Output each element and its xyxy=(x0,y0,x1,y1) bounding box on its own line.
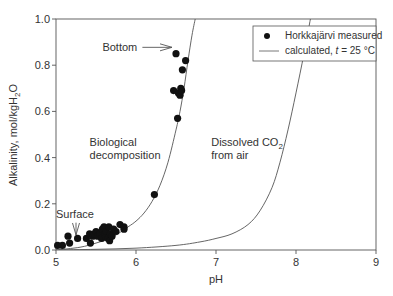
data-point xyxy=(178,87,185,94)
x-tick-label: 5 xyxy=(53,256,59,268)
x-tick-label: 8 xyxy=(293,256,299,268)
data-point xyxy=(120,226,127,233)
annotation-bio2: decomposition xyxy=(90,149,161,161)
data-point xyxy=(174,115,181,122)
y-tick-label: 0.2 xyxy=(35,198,50,210)
annotation-co2b: from air xyxy=(211,149,249,161)
x-axis: 56789 xyxy=(53,250,379,268)
y-tick-label: 0.4 xyxy=(35,152,50,164)
data-point xyxy=(66,239,73,246)
data-point xyxy=(87,239,94,246)
data-point xyxy=(59,242,66,249)
annotation-surface: Surface xyxy=(56,208,94,220)
x-tick-label: 6 xyxy=(133,256,139,268)
legend-label-measured: Horkkajärvi measured xyxy=(285,30,382,41)
y-axis-title: Alkalinity, mol/kgH2O xyxy=(7,84,22,187)
alkalinity-ph-chart: 0.00.20.40.60.81.0 56789 BottomSurfaceBi… xyxy=(0,0,393,296)
annotation-bottom: Bottom xyxy=(102,41,137,53)
data-point xyxy=(151,191,158,198)
data-point xyxy=(172,50,179,57)
y-axis: 0.00.20.40.60.81.0 xyxy=(35,13,56,256)
data-point xyxy=(179,66,186,73)
x-axis-title: pH xyxy=(209,273,223,285)
data-point xyxy=(182,57,189,64)
annotation-bio1: Biological xyxy=(90,136,137,148)
y-tick-label: 0.6 xyxy=(35,105,50,117)
legend-marker-circle-icon xyxy=(264,33,270,39)
x-tick-label: 7 xyxy=(213,256,219,268)
annotations: BottomSurfaceBiologicaldecompositionDiss… xyxy=(56,41,283,235)
legend-label-calculated: calculated, t = 25 °C xyxy=(285,45,375,56)
y-tick-label: 1.0 xyxy=(35,13,50,25)
data-point xyxy=(64,233,71,240)
y-tick-label: 0.8 xyxy=(35,59,50,71)
data-point xyxy=(112,228,119,235)
y-tick-label: 0.0 xyxy=(35,244,50,256)
legend: Horkkajärvi measured calculated, t = 25 … xyxy=(253,26,382,61)
x-tick-label: 9 xyxy=(373,256,379,268)
data-point xyxy=(74,235,81,242)
